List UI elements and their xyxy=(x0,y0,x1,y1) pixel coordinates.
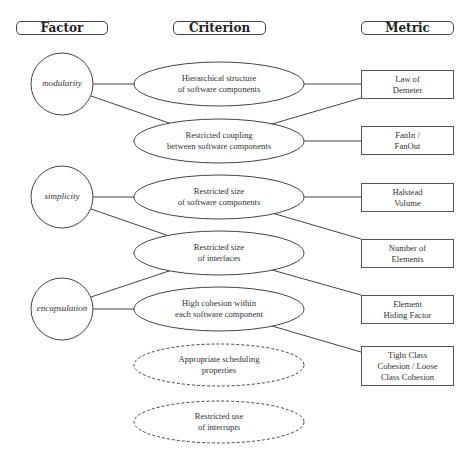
edge-size-elements xyxy=(272,213,361,239)
header-metric: Metric xyxy=(361,21,454,35)
factor-label-modularity: modularity xyxy=(31,78,93,88)
criterion-label-interrupts: Restricted use of interrupts xyxy=(134,411,304,433)
metric-node-demeter: Law of Demeter xyxy=(361,70,454,99)
criterion-line2: of software components xyxy=(134,84,304,95)
criterion-label-scheduling: Appropriate scheduling properties xyxy=(134,354,304,376)
metric-label: Law of Demeter xyxy=(393,74,423,96)
metric-label: Number of Elements xyxy=(389,243,426,265)
criterion-line1: Restricted size xyxy=(134,186,304,197)
criterion-label-hierarchical: Hierarchical structure of software compo… xyxy=(134,73,304,95)
criterion-line2: each software component xyxy=(134,309,304,320)
criterion-line2: of interfaces xyxy=(134,253,304,264)
metric-node-halstead: Halstead Volume xyxy=(361,183,454,212)
metric-label: Tight Class Cohesion / Loose Class Cohes… xyxy=(377,350,437,383)
header-factor: Factor xyxy=(16,21,108,35)
metric-node-hiding-factor: Element Hiding Factor xyxy=(361,295,454,324)
criterion-label-interfaces: Restricted size of interfaces xyxy=(134,242,304,264)
criterion-line2: properties xyxy=(134,365,304,376)
metric-label: FanIn / FanOut xyxy=(395,130,421,152)
metric-label: Halstead Volume xyxy=(392,187,422,209)
criterion-line1: Restricted use xyxy=(134,411,304,422)
edge-coupling-demeter xyxy=(272,98,361,124)
criterion-line1: Appropriate scheduling xyxy=(134,354,304,365)
criterion-label-coupling: Restricted coupling between software com… xyxy=(134,130,304,152)
edge-interfaces-hiding xyxy=(272,270,361,295)
factor-label-encapsulation: encapsulation xyxy=(31,303,93,313)
criterion-line1: High cohesion within xyxy=(134,298,304,309)
criterion-line2: of interrupts xyxy=(134,422,304,433)
criterion-line2: between software components xyxy=(134,141,304,152)
criterion-line2: of software components xyxy=(134,197,304,208)
criterion-line1: Hierarchical structure xyxy=(134,73,304,84)
criterion-label-cohesion: High cohesion within each software compo… xyxy=(134,298,304,320)
header-criterion: Criterion xyxy=(173,21,266,35)
metric-label: Element Hiding Factor xyxy=(384,299,432,321)
metric-node-elements: Number of Elements xyxy=(361,239,454,268)
edge-cohesion-tcc xyxy=(272,326,361,352)
metric-node-class-cohesion: Tight Class Cohesion / Loose Class Cohes… xyxy=(361,346,454,386)
factor-label-simplicity: simplicity xyxy=(31,191,93,201)
metric-node-fanin-fanout: FanIn / FanOut xyxy=(361,126,454,155)
criterion-line1: Restricted size xyxy=(134,242,304,253)
criterion-line1: Restricted coupling xyxy=(134,130,304,141)
criterion-label-size-components: Restricted size of software components xyxy=(134,186,304,208)
